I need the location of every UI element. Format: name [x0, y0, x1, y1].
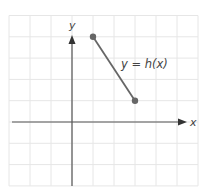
x-axis-arrow-icon [178, 119, 187, 126]
axes: x y [12, 19, 197, 186]
coordinate-plane: x y y = h(x) [0, 0, 207, 193]
function-label: y = h(x) [120, 57, 168, 71]
y-axis-label: y [68, 19, 76, 32]
x-axis-label: x [189, 116, 197, 129]
endpoint-dot [90, 34, 96, 40]
grid [9, 16, 198, 186]
endpoint-dot [132, 98, 138, 104]
